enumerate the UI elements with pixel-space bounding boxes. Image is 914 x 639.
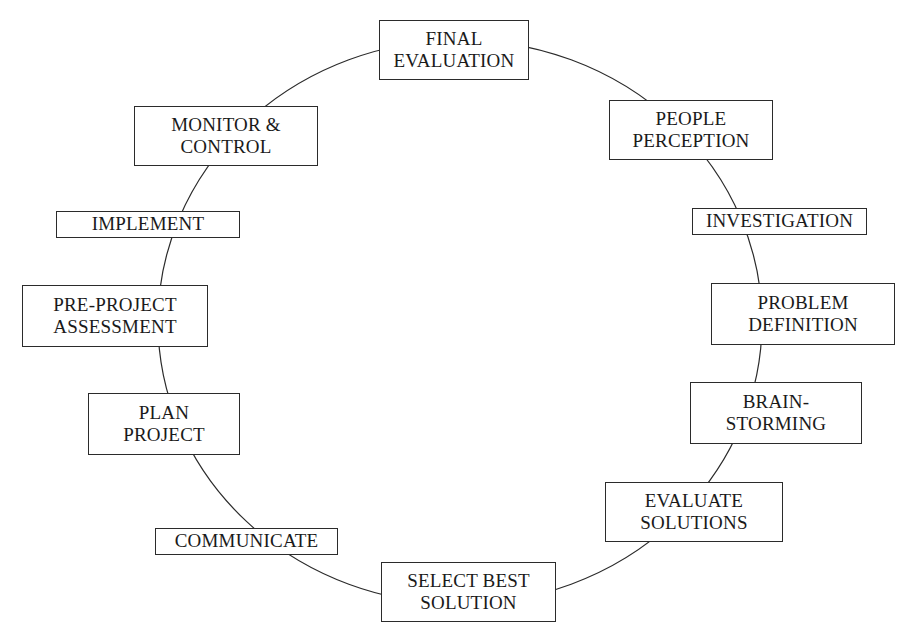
cycle-node-label: MONITOR & CONTROL — [165, 114, 287, 159]
cycle-node-problem-definition[interactable]: PROBLEM DEFINITION — [711, 283, 895, 345]
cycle-node-label: INVESTIGATION — [700, 210, 859, 232]
cycle-node-monitor-control[interactable]: MONITOR & CONTROL — [134, 106, 318, 166]
cycle-node-label: PRE-PROJECT ASSESSMENT — [47, 294, 183, 339]
cycle-node-investigation[interactable]: INVESTIGATION — [692, 208, 867, 235]
cycle-node-evaluate-solutions[interactable]: EVALUATE SOLUTIONS — [605, 482, 783, 542]
cycle-node-label: SELECT BEST SOLUTION — [401, 570, 536, 615]
cycle-node-label: PLAN PROJECT — [117, 402, 211, 447]
cycle-node-select-best-solution[interactable]: SELECT BEST SOLUTION — [381, 562, 556, 622]
cycle-diagram: FINAL EVALUATIONPEOPLE PERCEPTIONINVESTI… — [0, 0, 914, 639]
cycle-node-pre-project-assessment[interactable]: PRE-PROJECT ASSESSMENT — [22, 285, 208, 347]
cycle-node-communicate[interactable]: COMMUNICATE — [155, 528, 338, 555]
cycle-node-implement[interactable]: IMPLEMENT — [56, 211, 240, 238]
cycle-node-label: PROBLEM DEFINITION — [742, 292, 864, 337]
cycle-node-label: FINAL EVALUATION — [388, 28, 521, 73]
cycle-node-plan-project[interactable]: PLAN PROJECT — [88, 393, 240, 455]
cycle-node-people-perception[interactable]: PEOPLE PERCEPTION — [609, 100, 773, 160]
cycle-node-label: EVALUATE SOLUTIONS — [634, 490, 753, 535]
cycle-node-label: PEOPLE PERCEPTION — [626, 108, 755, 153]
cycle-node-label: BRAIN- STORMING — [720, 391, 833, 436]
cycle-node-final-evaluation[interactable]: FINAL EVALUATION — [379, 20, 529, 80]
cycle-node-label: COMMUNICATE — [169, 530, 325, 552]
cycle-node-label: IMPLEMENT — [86, 213, 211, 235]
cycle-node-brain-storming[interactable]: BRAIN- STORMING — [690, 382, 862, 444]
